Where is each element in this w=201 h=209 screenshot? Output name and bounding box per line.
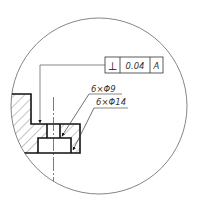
tolerance-value: 0.04	[126, 61, 145, 71]
perpendicularity-icon: ⊥	[108, 60, 118, 73]
datum-reference: A	[153, 61, 160, 71]
thru-hole-label: 6×Φ9	[91, 84, 116, 94]
counterbore-callout: 6×Φ14	[73, 97, 128, 150]
counterbore-outline	[38, 138, 71, 153]
detail-drawing: ⊥ 0.04 A 6×Φ9 6×Φ14	[0, 0, 201, 209]
feature-control-frame: ⊥ 0.04 A	[105, 57, 163, 73]
counterbore-label: 6×Φ14	[96, 97, 126, 107]
